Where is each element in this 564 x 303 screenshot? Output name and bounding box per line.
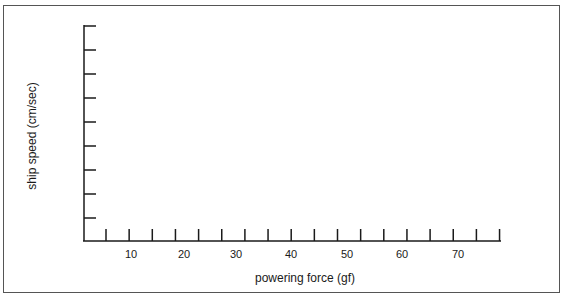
x-axis-label: powering force (gf) [255, 271, 355, 285]
plot-area [0, 0, 564, 303]
y-axis-label: ship speed (cm/sec) [25, 82, 39, 189]
x-tick-label: 10 [125, 248, 137, 260]
x-tick-label: 20 [178, 248, 190, 260]
x-tick-label: 30 [230, 248, 242, 260]
x-tick-label: 60 [396, 248, 408, 260]
x-tick-label: 70 [452, 248, 464, 260]
x-tick-label: 50 [341, 248, 353, 260]
x-tick-label: 40 [285, 248, 297, 260]
